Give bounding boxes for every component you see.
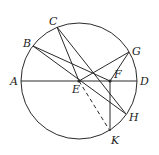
label-e: E	[71, 83, 80, 96]
label-b: B	[22, 37, 31, 50]
label-f: F	[113, 68, 122, 81]
label-g: G	[132, 45, 141, 58]
label-a: A	[9, 75, 18, 88]
geometry-diagram: ABCDEFGHK	[0, 0, 159, 155]
label-c: C	[49, 15, 58, 28]
label-h: H	[128, 111, 139, 124]
point-f	[108, 79, 111, 82]
segment-ce	[57, 27, 79, 81]
label-d: D	[139, 75, 149, 88]
label-k: K	[110, 134, 120, 147]
